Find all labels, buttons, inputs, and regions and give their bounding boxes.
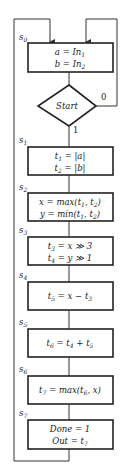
stmt-x-max: x = max(t1, t2) bbox=[39, 197, 101, 208]
stmt-t5: t5 = x − t3 bbox=[48, 291, 93, 302]
decision-label: Start bbox=[56, 101, 78, 111]
stmt-done: Done = 1 bbox=[49, 424, 90, 434]
stmt-t3: t3 = x ≫ 3 bbox=[48, 241, 92, 252]
stmt-y-min: y = min(t1, t2) bbox=[39, 209, 100, 220]
stmt-out: Out = t7 bbox=[52, 436, 88, 447]
state-label-s3: s3 bbox=[19, 225, 27, 236]
state-label-s7: s7 bbox=[19, 408, 27, 419]
stmt-t4: t4 = y ≫ 1 bbox=[48, 253, 92, 264]
edge-label-false: 0 bbox=[101, 92, 106, 102]
flowchart-diagram: s0 a = In1 b = In2 Start 0 1 s1 t1 = |a|… bbox=[0, 0, 127, 470]
state-label-s4: s4 bbox=[19, 270, 27, 281]
state-label-s1: s1 bbox=[19, 135, 27, 146]
stmt-a-in1: a = In1 bbox=[55, 47, 85, 58]
stmt-t7: t7 = max(t6, x) bbox=[39, 385, 101, 396]
state-label-s0: s0 bbox=[19, 32, 27, 43]
edge-label-true: 1 bbox=[73, 125, 78, 135]
state-label-s6: s6 bbox=[19, 364, 27, 375]
state-label-s5: s5 bbox=[19, 317, 27, 328]
stmt-b-in2: b = In2 bbox=[55, 59, 86, 70]
state-label-s2: s2 bbox=[19, 182, 27, 193]
